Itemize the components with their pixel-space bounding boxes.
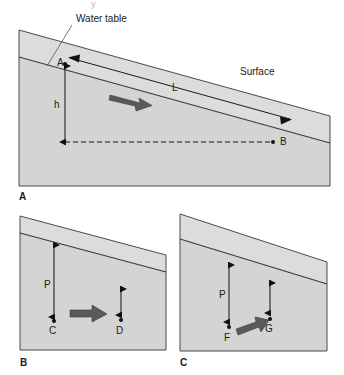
groundwater-gradient-figure: Water table Surface A B h L A y P C D B (0, 0, 344, 375)
panel-a-label: A (19, 191, 26, 202)
cropped-title-fragment: y (91, 0, 96, 9)
panel-c-point-f-label: F (224, 332, 230, 343)
panel-b-label: B (20, 357, 27, 368)
panel-c-label: C (180, 357, 187, 368)
panel-b-pressure-label: P (44, 279, 51, 290)
panel-c-point-g-label: G (265, 323, 273, 334)
panel-c-point-f-dot (227, 325, 231, 329)
panel-b-point-c-dot (52, 319, 56, 323)
point-b-label: B (280, 136, 287, 147)
flow-length-label: L (172, 82, 178, 93)
point-a-label: A (57, 57, 64, 68)
head-drop-label: h (54, 99, 60, 110)
water-table-label: Water table (76, 13, 127, 24)
panel-b-point-d-label: D (116, 325, 123, 336)
panel-a-point-b-dot (271, 140, 275, 144)
surface-label: Surface (240, 66, 275, 77)
panel-b-point-d-dot (119, 318, 123, 322)
panel-b-point-c-label: C (49, 325, 56, 336)
panel-c-pressure-label: P (219, 289, 226, 300)
